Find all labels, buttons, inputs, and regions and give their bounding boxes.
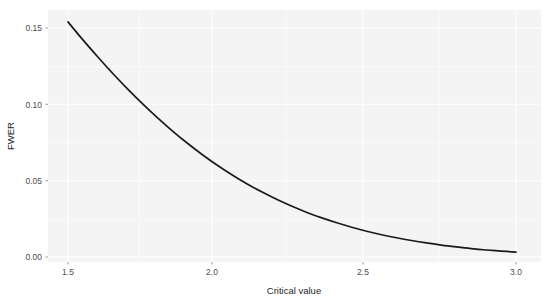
y-tick-label-2: 0.10 — [25, 100, 42, 110]
y-tick-label-3: 0.15 — [25, 23, 42, 33]
x-tick-label-1: 2.0 — [206, 267, 218, 277]
x-tick-label-3: 3.0 — [510, 267, 522, 277]
y-tick-label-1: 0.05 — [25, 176, 42, 186]
y-axis-title: FWER — [5, 122, 16, 150]
x-tick-label-0: 1.5 — [62, 267, 74, 277]
chart-figure: 1.5 2.0 2.5 3.0 0.00 0.05 0.10 0.15 Crit… — [0, 0, 551, 301]
y-tick-label-0: 0.00 — [25, 252, 42, 262]
x-tick-label-2: 2.5 — [357, 267, 369, 277]
plot-panel-background — [48, 10, 541, 262]
plot-svg: 1.5 2.0 2.5 3.0 0.00 0.05 0.10 0.15 Crit… — [0, 0, 551, 301]
x-axis-title: Critical value — [267, 285, 321, 296]
